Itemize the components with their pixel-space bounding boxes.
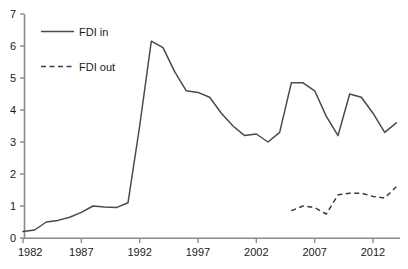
x-tick-label: 2002 [244,246,268,258]
y-tick-label: 7 [10,8,16,20]
y-axis-tick-labels: 01234567 [10,8,16,244]
x-axis-tick-labels: 1982198719921997200220072012 [18,246,385,258]
y-tick-label: 1 [10,200,16,212]
y-tick-label: 3 [10,136,16,148]
y-tick-label: 2 [10,168,16,180]
legend-label-fdi-in: FDI in [79,26,108,38]
legend: FDI in FDI out [41,26,115,73]
x-tick-label: 2007 [302,246,326,258]
y-tick-label: 0 [10,232,16,244]
x-tick-label: 1987 [69,246,93,258]
x-tick-label: 1997 [186,246,210,258]
chart-canvas: 01234567 1982198719921997200220072012 FD… [0,0,408,269]
x-axis: 1982198719921997200220072012 [18,238,400,258]
x-tick-label: 1982 [18,246,42,258]
y-axis: 01234567 [10,8,25,244]
y-axis-ticks [20,14,24,238]
x-tick-label: 1992 [127,246,151,258]
series-line-fdi-out [291,187,396,214]
fdi-line-chart: 01234567 1982198719921997200220072012 FD… [0,0,408,269]
y-tick-label: 6 [10,40,16,52]
x-tick-label: 2012 [361,246,385,258]
legend-label-fdi-out: FDI out [79,61,115,73]
y-tick-label: 4 [10,104,16,116]
y-tick-label: 5 [10,72,16,84]
